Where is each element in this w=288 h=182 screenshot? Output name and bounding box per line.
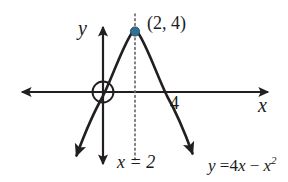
equation-exponent: 2 <box>271 154 277 166</box>
y-axis-label: y <box>78 18 87 38</box>
equation-y-term: y <box>208 156 216 175</box>
axis-of-symmetry-label: x = 2 <box>117 153 155 171</box>
vertex-coordinate-label: (2, 4) <box>147 14 186 32</box>
x-axis-label: x <box>258 95 267 115</box>
x-intercept-label: 4 <box>170 94 179 112</box>
vertex-point <box>130 27 139 36</box>
equation-equals-four: =4 <box>216 156 238 175</box>
parabola-figure: y x (2, 4) 4 x = 2 y =4x − x2 <box>0 0 288 182</box>
equation-x-term-squared: x <box>264 156 272 175</box>
equation-label: y =4x − x2 <box>208 155 277 174</box>
equation-minus-sign: − <box>245 156 263 175</box>
